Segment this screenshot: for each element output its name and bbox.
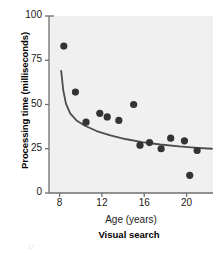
data-point [181, 137, 188, 144]
data-point [136, 142, 143, 149]
x-tick-label: 8 [45, 197, 75, 208]
x-tick-label: 16 [129, 197, 159, 208]
data-points-group [60, 42, 201, 178]
data-point [146, 139, 153, 146]
data-point [167, 135, 174, 142]
data-point [96, 110, 103, 117]
fit-curve [61, 71, 212, 149]
y-tick-label: 25 [16, 142, 42, 153]
data-point [60, 42, 67, 49]
data-point [130, 101, 137, 108]
x-tick-label-group: 8121620 [0, 197, 217, 213]
y-tick-label-group: 0255075100 [12, 0, 42, 253]
data-point [194, 147, 201, 154]
y-tick-label: 100 [16, 9, 42, 20]
data-point [72, 89, 79, 96]
fit-curve-group [61, 71, 212, 149]
x-axis-title: Age (years) [49, 214, 213, 225]
data-point [158, 145, 165, 152]
corner-page-mark: 17 [28, 244, 35, 250]
data-point [82, 119, 89, 126]
y-tick-label: 50 [16, 98, 42, 109]
y-tick-label: 75 [16, 53, 42, 64]
figure-caption: Visual search [44, 229, 214, 240]
axes-group [45, 16, 213, 197]
x-tick-label: 12 [87, 197, 117, 208]
data-point [115, 117, 122, 124]
x-tick-label: 20 [172, 197, 202, 208]
y-tick-label: 0 [16, 186, 42, 197]
data-point [186, 172, 193, 179]
data-point [104, 113, 111, 120]
figure-container: Processing time (milliseconds) 025507510… [0, 0, 217, 253]
